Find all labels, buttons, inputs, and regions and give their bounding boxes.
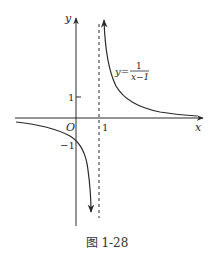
- y-axis-label: y: [64, 12, 72, 25]
- x-tick-one-label: 1: [102, 122, 108, 133]
- x-axis-label: x: [195, 121, 202, 134]
- function-label: y= 1 x−1: [114, 61, 149, 82]
- function-denominator: x−1: [131, 72, 149, 82]
- function-lhs: y=: [114, 66, 129, 77]
- curve-left-branch: [16, 122, 91, 212]
- function-numerator: 1: [136, 61, 142, 71]
- figure-caption: 图 1-28: [0, 233, 214, 250]
- origin-label: O: [66, 121, 75, 134]
- y-tick-one-label: 1: [68, 92, 74, 103]
- hyperbola-figure: y x O 1 1 −1 y= 1 x−1 图 1-28: [0, 0, 214, 257]
- y-tick-neg-one-label: −1: [60, 140, 75, 151]
